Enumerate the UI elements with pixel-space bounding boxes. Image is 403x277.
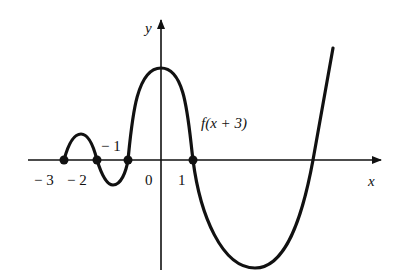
tick-label-neg2: − 2 [67,172,87,188]
function-curve [64,48,333,268]
zero-point-neg1 [124,156,133,165]
tick-label-neg1: − 1 [101,138,121,154]
tick-label-one: 1 [178,172,186,188]
x-axis-label: x [367,173,375,189]
tick-label-zero: 0 [145,172,153,188]
zero-point-neg2 [93,156,102,165]
zero-point-1 [189,156,198,165]
function-graph: y x − 3 − 2 − 1 0 1 f(x + 3) [0,0,403,277]
zero-point-neg3 [60,156,69,165]
tick-label-neg3: − 3 [34,172,54,188]
y-axis-label: y [143,20,152,36]
curve-label: f(x + 3) [201,115,247,132]
